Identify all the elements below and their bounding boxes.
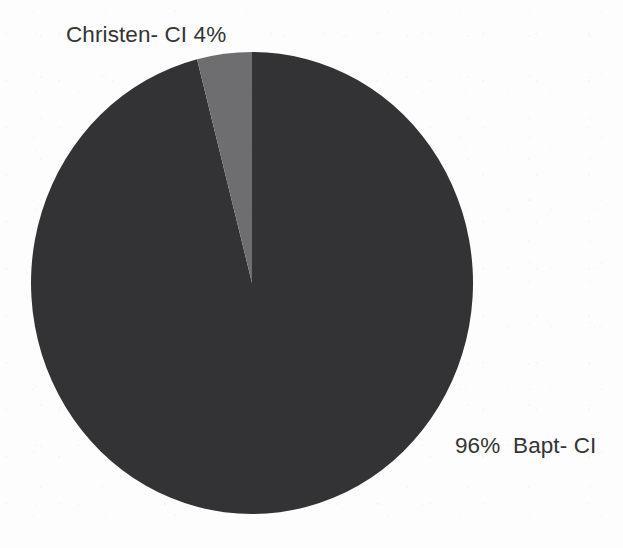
pie-label-christen-ci: Christen- CI 4% <box>66 24 226 47</box>
pie-label-bapt-ci: 96% Bapt- CI <box>455 435 596 458</box>
pie-chart-figure: Christen- CI 4% 96% Bapt- CI <box>0 0 623 548</box>
pie-chart-graphic <box>0 0 623 548</box>
pie-slice-bapt-ci[interactable] <box>31 52 473 514</box>
